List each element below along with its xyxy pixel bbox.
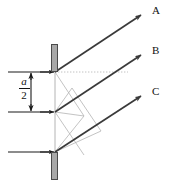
- dimension-label-half-aperture: a 2: [14, 76, 34, 101]
- bottom-barrier: [52, 153, 58, 180]
- slit-pointer-arrows: [40, 72, 54, 152]
- construction-line-path-difference-mid: [55, 112, 84, 116]
- ray-label-b: B: [152, 45, 159, 56]
- construction-line-wavefront-upper: [55, 88, 72, 112]
- construction-lines: [55, 72, 101, 155]
- dimension-denominator: 2: [14, 89, 34, 101]
- ray-label-c: C: [152, 86, 159, 97]
- ray-label-a: A: [152, 5, 160, 16]
- top-barrier: [52, 45, 58, 72]
- construction-line-parallelogram-base: [55, 131, 101, 152]
- dimension-numerator: a: [14, 76, 34, 88]
- diffraction-figure: A B C a 2: [0, 0, 172, 185]
